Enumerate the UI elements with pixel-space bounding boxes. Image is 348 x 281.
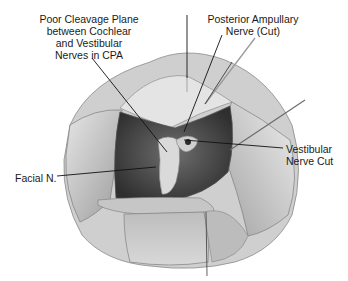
label-cleavage-plane: Poor Cleavage Plane between Cochlear and… bbox=[30, 13, 148, 61]
label-facial-nerve: Facial N. bbox=[15, 172, 56, 184]
bottom-block bbox=[124, 212, 209, 265]
label-posterior-ampullary-nerve: Posterior Ampullary Nerve (Cut) bbox=[203, 13, 303, 37]
label-vestibular-nerve-cut: Vestibular Nerve Cut bbox=[286, 143, 333, 167]
surgical-illustration: Poor Cleavage Plane between Cochlear and… bbox=[0, 0, 348, 281]
